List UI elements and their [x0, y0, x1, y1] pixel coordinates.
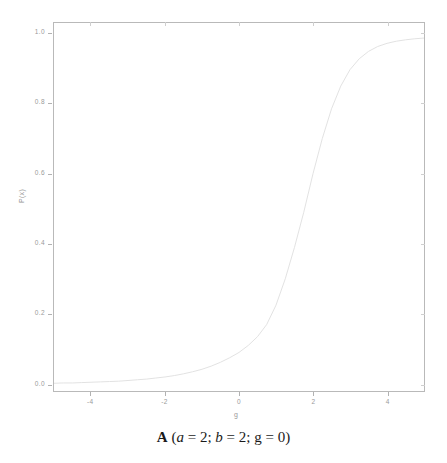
y-tick-label: 0.2	[35, 309, 45, 316]
x-tick-label: 0	[237, 398, 241, 405]
plot-area	[53, 22, 425, 392]
series-line-p-of-x	[54, 38, 424, 383]
y-tick-label: 1.0	[35, 28, 45, 35]
caption-panel-letter: A	[157, 429, 168, 445]
x-tick-label: -4	[87, 398, 94, 405]
x-tick-label: -2	[161, 398, 168, 405]
y-tick-label: 0.0	[35, 380, 45, 387]
caption-param-value: = 2;	[184, 429, 215, 445]
y-tick-label: 0.4	[35, 239, 45, 246]
caption-param-value: = 2;	[223, 429, 254, 445]
caption-param-value: = 0	[262, 429, 285, 445]
y-tick-mark	[48, 385, 52, 386]
x-tick-label: 4	[386, 398, 390, 405]
y-tick-mark	[48, 174, 52, 175]
x-tick-mark	[313, 392, 314, 396]
figure-root: 0.00.20.40.60.81.0 -4-2024 P(x) g A (a =…	[0, 0, 447, 463]
y-tick-mark	[48, 244, 52, 245]
y-tick-label: 0.8	[35, 98, 45, 105]
y-tick-mark	[48, 103, 52, 104]
x-tick-mark	[239, 392, 240, 396]
y-tick-mark-right	[421, 33, 425, 34]
x-tick-mark	[90, 392, 91, 396]
y-tick-mark	[48, 33, 52, 34]
caption-param-name: g	[254, 429, 262, 445]
caption-param-name: a	[176, 429, 184, 445]
y-tick-mark-right	[421, 314, 425, 315]
y-tick-mark-right	[421, 103, 425, 104]
caption-param-name: b	[215, 429, 223, 445]
x-axis-title: g	[234, 411, 238, 418]
y-tick-mark-right	[421, 385, 425, 386]
y-axis-title: P(x)	[18, 189, 25, 203]
x-tick-mark	[388, 392, 389, 396]
x-tick-mark-top	[90, 22, 91, 26]
y-tick-label: 0.6	[35, 169, 45, 176]
figure-caption: A (a = 2; b = 2; g = 0)	[0, 429, 447, 446]
x-tick-mark-top	[388, 22, 389, 26]
x-tick-mark-top	[313, 22, 314, 26]
x-tick-mark-top	[165, 22, 166, 26]
x-tick-mark	[165, 392, 166, 396]
y-tick-mark-right	[421, 174, 425, 175]
curve-plot	[54, 23, 424, 391]
y-tick-mark-right	[421, 244, 425, 245]
y-tick-mark	[48, 314, 52, 315]
x-tick-mark-top	[239, 22, 240, 26]
x-tick-label: 2	[311, 398, 315, 405]
